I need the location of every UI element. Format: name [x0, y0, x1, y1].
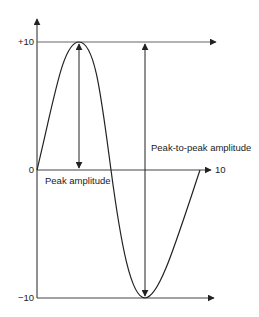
y-tick-0: 0 — [29, 164, 34, 175]
peak-to-peak-amplitude-label: Peak-to-peak amplitude — [151, 142, 251, 153]
y-tick-plus-10: +10 — [18, 36, 34, 47]
y-tick-minus-10: −10 — [18, 292, 34, 303]
peak-amplitude-label: Peak amplitude — [45, 175, 110, 186]
x-axis-end-label: 10 — [215, 164, 226, 175]
amplitude-diagram: +10 0 −10 10 Peak amplitude Peak-to-peak… — [0, 0, 259, 317]
